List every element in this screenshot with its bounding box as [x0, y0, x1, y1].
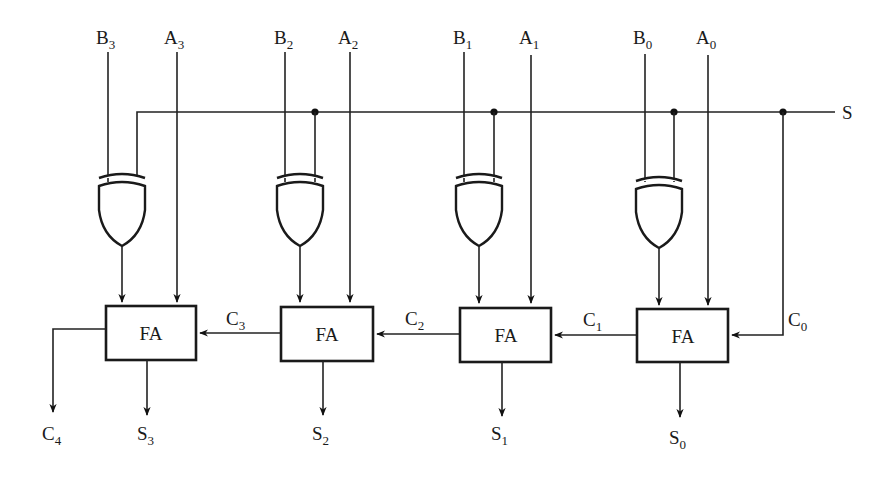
input-b1-label: B1	[453, 27, 472, 52]
carry-out-c4-label: C4	[42, 423, 62, 448]
control-label: S	[842, 102, 853, 123]
input-b3-label: B3	[96, 27, 115, 52]
carry-in-c0-wire	[732, 112, 783, 335]
input-a2-label: A2	[338, 27, 358, 52]
stage-0: B0 A0 FA S0 C0	[633, 27, 807, 452]
sum-s3-label: S3	[137, 423, 154, 448]
stage-3: B3 A3 FA C4 S3 C3	[42, 27, 281, 448]
xor-gate-icon	[456, 174, 502, 246]
xor-gate-icon	[277, 174, 323, 246]
input-a3-label: A3	[164, 27, 184, 52]
adder-subtractor-diagram: S B3 A3 FA C4 S3 C3 B2 A2	[0, 0, 890, 477]
sum-s2-label: S2	[312, 423, 329, 448]
carry-c2-label: C2	[405, 308, 424, 333]
carry-c3-label: C3	[226, 308, 245, 333]
xor-gate-icon	[636, 177, 682, 248]
input-b0-label: B0	[633, 27, 652, 52]
stage-1: B1 A1 FA S1 C1	[453, 27, 637, 448]
full-adder-label: FA	[140, 323, 163, 344]
carry-c0-label: C0	[788, 309, 807, 334]
sum-s0-label: S0	[669, 427, 686, 452]
full-adder-label: FA	[672, 326, 695, 347]
stage-2: B2 A2 FA S2 C2	[274, 27, 460, 448]
input-a0-label: A0	[696, 27, 716, 52]
xor-gate-icon	[99, 174, 145, 246]
sum-s1-label: S1	[491, 423, 508, 448]
input-b2-label: B2	[274, 27, 293, 52]
full-adder-label: FA	[495, 325, 518, 346]
carry-out-wire	[53, 329, 106, 412]
full-adder-label: FA	[316, 324, 339, 345]
carry-c1-label: C1	[583, 309, 602, 334]
input-a1-label: A1	[519, 27, 539, 52]
